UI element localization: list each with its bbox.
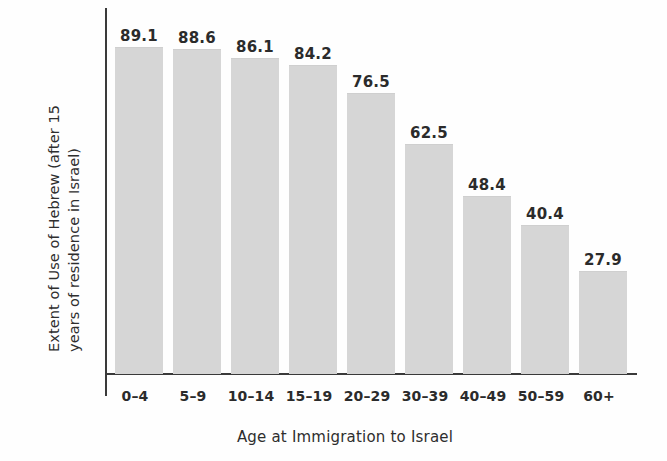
bar-value-label: 40.4 bbox=[521, 205, 569, 223]
bar[interactable] bbox=[173, 49, 221, 374]
x-tick-label: 40–49 bbox=[454, 388, 512, 404]
y-axis-title-line-2: years of residence in Israel) bbox=[66, 148, 82, 352]
bar-value-label: 62.5 bbox=[405, 124, 453, 142]
x-tick-label: 0–4 bbox=[106, 388, 164, 404]
bar[interactable] bbox=[115, 47, 163, 374]
y-axis-title-line-1: Extent of Use of Hebrew (after 15 bbox=[46, 105, 62, 352]
x-tick-label: 30–39 bbox=[396, 388, 454, 404]
bar-group: 84.2 bbox=[280, 8, 338, 374]
x-axis-title: Age at Immigration to Israel bbox=[106, 428, 584, 446]
bar[interactable] bbox=[521, 225, 569, 374]
bar-group: 27.9 bbox=[570, 8, 628, 374]
bar-value-label: 89.1 bbox=[115, 27, 163, 45]
bar-value-label: 84.2 bbox=[289, 45, 337, 63]
plot-area: 89.188.686.184.276.562.548.440.427.9 bbox=[106, 8, 646, 374]
x-tick-label: 10–14 bbox=[222, 388, 280, 404]
bar[interactable] bbox=[347, 93, 395, 374]
x-tick-label: 20–29 bbox=[338, 388, 396, 404]
bar[interactable] bbox=[405, 144, 453, 374]
bar-group: 48.4 bbox=[454, 8, 512, 374]
bar-group: 88.6 bbox=[164, 8, 222, 374]
x-tick-label: 5–9 bbox=[164, 388, 222, 404]
bar-value-label: 86.1 bbox=[231, 38, 279, 56]
bar-group: 86.1 bbox=[222, 8, 280, 374]
bar-group: 40.4 bbox=[512, 8, 570, 374]
bar[interactable] bbox=[463, 196, 511, 374]
bar-group: 76.5 bbox=[338, 8, 396, 374]
bar-value-label: 88.6 bbox=[173, 29, 221, 47]
bar-group: 62.5 bbox=[396, 8, 454, 374]
bar[interactable] bbox=[579, 271, 627, 374]
bar[interactable] bbox=[289, 65, 337, 374]
x-tick-label: 60+ bbox=[570, 388, 628, 404]
y-axis-title: Extent of Use of Hebrew (after 15 years … bbox=[0, 0, 100, 400]
bar[interactable] bbox=[231, 58, 279, 374]
x-tick-label: 50–59 bbox=[512, 388, 570, 404]
x-axis-tick-labels: 0–45–910–1415–1920–2930–3940–4950–5960+ bbox=[106, 388, 646, 414]
bar-value-label: 27.9 bbox=[579, 251, 627, 269]
bar-value-label: 76.5 bbox=[347, 73, 395, 91]
x-tick-label: 15–19 bbox=[280, 388, 338, 404]
bar-value-label: 48.4 bbox=[463, 176, 511, 194]
bar-group: 89.1 bbox=[106, 8, 164, 374]
bar-chart-figure: Extent of Use of Hebrew (after 15 years … bbox=[0, 0, 667, 461]
